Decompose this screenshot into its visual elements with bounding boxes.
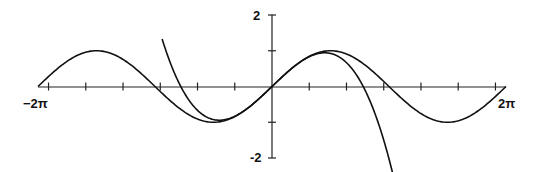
y-max-label: 2 [253,8,260,23]
chart-plot-area: −2π 2π 2 -2 [0,0,538,172]
y-min-label: -2 [250,150,262,165]
x-min-label: −2π [23,96,48,111]
cubic-taylor-curve [162,39,395,172]
x-max-label: 2π [498,96,515,111]
